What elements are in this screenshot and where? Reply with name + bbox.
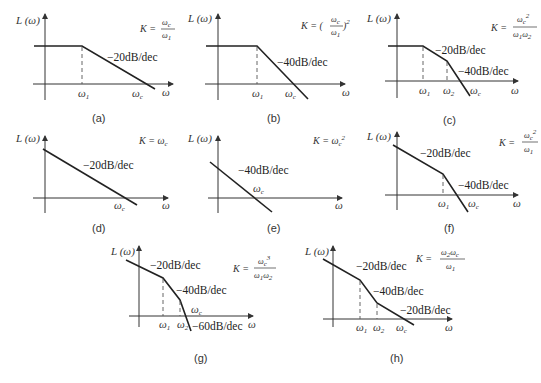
panel-caption: (g) [194,352,207,364]
y-axis-label: L (ω) [15,14,40,27]
omega1-tick: ω1 [419,84,430,98]
y-axis-label: L (ω) [304,245,329,258]
slope-label-2: −40dB/dec [458,179,509,191]
svg-text:K =: K = [415,253,432,264]
svg-text:ω1ω2: ω1ω2 [254,271,273,282]
slope-label: −40dB/dec [277,56,328,68]
panel-f: L (ω) ω ω1 ωc −20dB/dec −40dB/dec K = ωc… [366,128,538,234]
omegac-tick: ωc [132,87,144,101]
panel-e: L (ω) ω ωc −40dB/dec K = ωc2 (e) [187,132,346,234]
svg-text:ω1ω2: ω1ω2 [513,30,532,41]
slope-label-1: −20dB/dec [435,44,486,56]
omegac-tick: ωc [470,84,482,98]
gain-formula: K = ωc2 ω1ω2 [490,12,537,41]
panel-caption: (e) [267,222,280,234]
slope-label-2: −40dB/dec [458,65,509,77]
x-axis-label: ω [248,318,256,330]
panel-caption: (f) [444,222,454,234]
slope-label: −20dB/dec [83,159,134,171]
magnitude-curve [43,149,137,205]
omega1-tick: ω1 [78,87,89,101]
svg-text:ω2ωc: ω2ωc [441,248,460,259]
svg-text:ω1: ω1 [446,262,455,273]
svg-text:ω1: ω1 [331,28,340,39]
svg-text:K =: K = [498,137,515,148]
panel-caption: (h) [390,352,403,364]
gain-formula: K = ωc [138,135,168,148]
omegac-tick: ωc [191,303,203,317]
gain-formula: K = ωc2 ω1 [498,128,538,156]
panel-caption: (d) [92,222,105,234]
x-axis-label: ω [162,199,170,211]
y-axis-label: L (ω) [366,12,391,25]
svg-text:ωc: ωc [331,15,341,26]
omega1-tick: ω1 [252,87,263,101]
slope-label: −40dB/dec [238,164,289,176]
y-axis-label: L (ω) [187,132,212,145]
gain-formula: K = ωc2 [312,134,346,148]
panel-h: L (ω) ω ω1 ω2 ωc −20dB/dec −40dB/dec −20… [304,245,465,364]
x-axis-label: ω [511,84,519,96]
panel-caption: (c) [443,114,456,126]
svg-text:K = (: K = ( [300,20,323,32]
x-axis-label: ω [445,321,453,333]
x-axis-label: ω [162,86,170,98]
omegac-tick: ωc [285,87,297,101]
slope-label-3: −20dB/dec [400,304,451,316]
svg-text:ω1: ω1 [162,31,171,42]
omega1-tick: ω1 [438,197,449,211]
slope-label-3: −60dB/dec [192,320,243,332]
svg-text:K =: K = [490,22,507,33]
y-axis-label: L (ω) [15,132,40,145]
gain-formula: K = ωc3 ω1ω2 [232,254,276,282]
omega2-tick: ω2 [443,84,455,98]
panel-b: L (ω) ω ω1 ωc −40dB/dec K = ( ωc ω1 )2 (… [187,12,350,124]
y-axis-label: L (ω) [366,130,391,143]
omegac-tick: ωc [468,197,480,211]
slope-label-1: −20dB/dec [420,147,471,159]
svg-text:ωc: ωc [162,18,172,29]
slope-label-2: −40dB/dec [373,285,424,297]
x-axis-label: ω [342,86,350,98]
panel-d: L (ω) ω ωc −20dB/dec K = ωc (d) [15,132,170,234]
x-axis-label: ω [513,197,521,209]
svg-text:ωc2: ωc2 [524,128,537,142]
omega2-tick: ω2 [373,321,385,335]
omega1-tick: ω1 [356,321,367,335]
slope-label-2: −40dB/dec [176,284,227,296]
omegac-tick: ωc [396,321,408,335]
svg-text:ω1: ω1 [524,145,533,156]
y-axis-label: L (ω) [187,12,212,25]
svg-text:)2: )2 [342,18,350,32]
svg-text:ωc2: ωc2 [517,12,530,26]
x-axis-label: ω [335,199,343,211]
slope-label-1: −20dB/dec [356,260,407,272]
y-axis-label: L (ω) [110,245,135,258]
panel-c: L (ω) ω ω1 ω2 ωc −20dB/dec −40dB/dec K =… [366,12,537,126]
omegac-tick: ωc [114,199,126,213]
svg-text:ωc3: ωc3 [258,254,271,268]
panel-a: L (ω) ω ω1 ωc −20dB/dec K = ωc ω1 (a) [15,14,175,124]
slope-label-1: −20dB/dec [150,259,201,271]
bode-asymptote-figure: L (ω) ω ω1 ωc −20dB/dec K = ωc ω1 (a) L … [0,0,541,383]
omegac-tick: ωc [253,182,265,196]
omega1-tick: ω1 [159,318,170,332]
panel-g: L (ω) ω ω1 ω2 ωc −20dB/dec −40dB/dec −60… [110,245,276,364]
gain-formula: K = ( ωc ω1 )2 [300,15,350,39]
slope-label: −20dB/dec [107,51,158,63]
gain-formula: K = ωc ω1 [139,18,175,42]
panel-caption: (b) [267,112,280,124]
panel-caption: (a) [92,112,105,124]
svg-text:K =: K = [232,263,249,274]
gain-formula: K = ω2ωc ω1 [415,248,465,273]
svg-text:K =: K = [139,23,156,34]
